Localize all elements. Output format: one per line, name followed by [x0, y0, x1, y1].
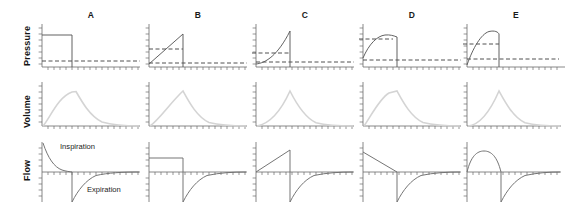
panel-pressure-e: [463, 22, 567, 72]
annotation-inspiration: Inspiration: [60, 142, 95, 151]
flow-trace-expiratory-d: [397, 172, 460, 202]
row-label-pressure: Pressure: [22, 26, 32, 66]
flow-trace-expiratory-b: [183, 158, 246, 202]
volume-trace-b: [150, 91, 246, 126]
axes-volume-b: [146, 82, 247, 129]
column-label-b: B: [178, 10, 218, 20]
volume-trace-e: [468, 91, 560, 126]
flow-trace-inspiratory-c: [256, 150, 290, 172]
volume-trace-d: [364, 91, 460, 126]
panel-pressure-c: [252, 22, 356, 72]
axes-pressure-d: [360, 24, 461, 70]
axes-pressure-c: [253, 24, 354, 70]
axes-pressure-a: [39, 24, 140, 70]
flow-trace-expiratory-c: [290, 150, 353, 202]
flow-trace-inspiratory-e: [467, 151, 501, 172]
panel-flow-c: [252, 140, 356, 206]
panel-pressure-a: [38, 22, 142, 72]
pressure-trace-e: [467, 31, 499, 67]
axes-volume-a: [39, 82, 140, 129]
panel-pressure-b: [145, 22, 249, 72]
panel-volume-e: [463, 80, 567, 132]
column-label-c: C: [285, 10, 325, 20]
column-label-a: A: [71, 10, 111, 20]
panel-pressure-d: [359, 22, 463, 72]
column-label-e: E: [496, 10, 536, 20]
flow-trace-inspiratory-d: [363, 152, 397, 172]
pressure-trace-d: [363, 35, 397, 67]
panel-volume-b: [145, 80, 249, 132]
ventilator-waveform-figure: Pressure Volume Flow A B C D E: [0, 0, 576, 209]
row-label-flow: Flow: [22, 160, 32, 181]
panel-volume-c: [252, 80, 356, 132]
volume-trace-c: [257, 91, 353, 126]
flow-trace-expiratory-e: [501, 172, 560, 202]
panel-flow-b: [145, 140, 249, 206]
panel-flow-e: [463, 140, 567, 206]
row-label-volume: Volume: [22, 95, 32, 128]
axes-pressure-e: [464, 24, 565, 70]
axes-volume-d: [360, 82, 461, 129]
annotation-expiration: Expiration: [87, 185, 121, 194]
column-label-d: D: [392, 10, 432, 20]
pressure-trace-a: [42, 35, 72, 67]
panel-flow-d: [359, 140, 463, 206]
panel-volume-a: [38, 80, 142, 132]
panel-volume-d: [359, 80, 463, 132]
pressure-trace-b: [149, 34, 183, 67]
volume-trace-a: [43, 92, 139, 127]
